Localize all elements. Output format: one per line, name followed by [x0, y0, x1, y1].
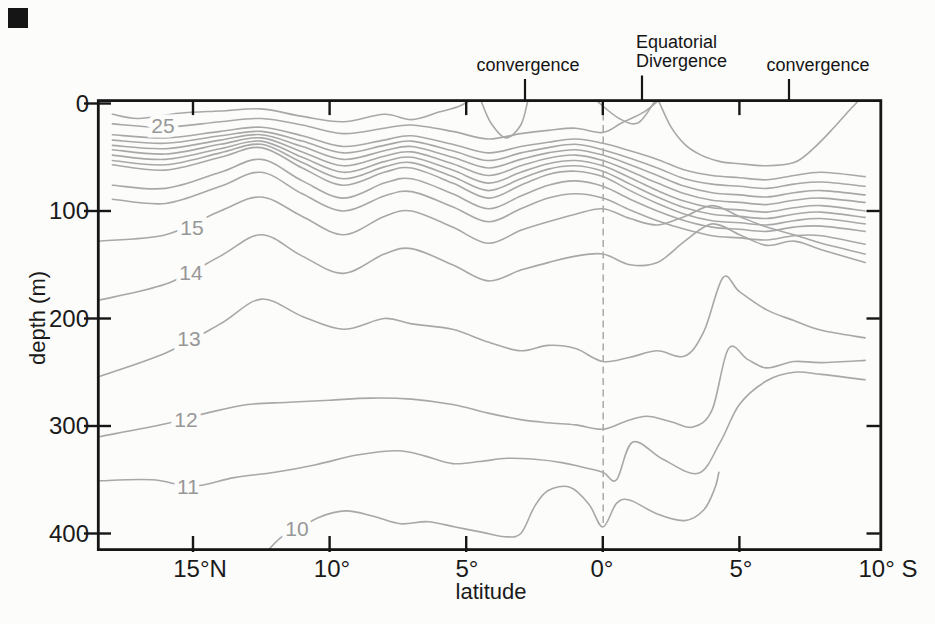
x-tick-label: 5° [730, 555, 753, 582]
annotation-equatorial-divergence-line2: Divergence [636, 52, 727, 71]
y-tick-label: 100 [49, 197, 89, 224]
isotherm-label-13: 13 [177, 327, 200, 350]
isotherm-15 [99, 197, 865, 254]
x-tick-label: 0° [591, 555, 614, 582]
contour-plot-canvas: 010020030040015°N10°5°0°5°10° S251514131… [0, 0, 935, 624]
y-tick-label: 400 [49, 520, 89, 547]
annotation-equatorial-divergence: Equatorial Divergence [636, 33, 727, 71]
x-tick-label: 5° [456, 555, 479, 582]
x-axis-title: latitude [456, 579, 527, 605]
isotherm-14 [99, 224, 865, 300]
oceanographic-temperature-section-figure: 010020030040015°N10°5°0°5°10° S251514131… [0, 0, 935, 624]
x-tick-label: 15°N [173, 555, 227, 582]
isotherm-10 [264, 472, 719, 555]
isotherm-18 [112, 147, 865, 225]
y-tick-label: 300 [49, 412, 89, 439]
isotherm-label-14: 14 [179, 261, 203, 284]
annotation-equatorial-divergence-line1: Equatorial [636, 33, 727, 52]
x-tick-label: 10° [314, 555, 350, 582]
isotherm-17 [112, 159, 865, 231]
isotherm-label-12: 12 [174, 408, 197, 431]
isotherm-25 [659, 101, 857, 166]
isotherm-11 [99, 372, 865, 486]
y-axis-title: depth (m) [25, 271, 51, 365]
y-tick-label: 0 [76, 90, 89, 117]
isotherm-contours [99, 101, 865, 555]
x-tick-label: 10° S [859, 555, 918, 582]
isotherm-12 [99, 346, 865, 437]
annotation-convergence-north: convergence [476, 56, 579, 75]
isotherm-26 [481, 101, 528, 138]
isotherm-label-25: 25 [151, 114, 174, 137]
isotherm-label-11: 11 [177, 475, 199, 498]
y-tick-label: 200 [49, 305, 89, 332]
isotherm-label-10: 10 [285, 517, 308, 540]
isotherm-label-15: 15 [180, 216, 203, 239]
annotation-convergence-south: convergence [766, 56, 869, 75]
